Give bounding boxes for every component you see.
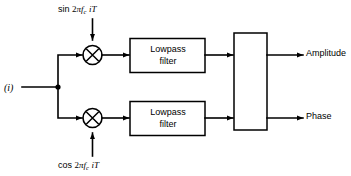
cos-frequency-subscript: c <box>86 164 89 171</box>
wire-branch-to-top-mixer <box>58 55 82 87</box>
input-signal-label: (i) <box>4 82 13 93</box>
cos-carrier-label: cos 2πfc iT <box>58 160 99 173</box>
phase-output-label: Phase <box>306 111 332 122</box>
cos-function-name: cos <box>58 160 72 170</box>
lowpass-filter-label-top: Lowpass filter <box>131 44 205 67</box>
sin-carrier-label: sin 2πfc iT <box>58 4 97 17</box>
sin-period-variable: T <box>91 4 96 14</box>
filter-label-line1-bottom: Lowpass <box>131 107 205 119</box>
sin-function-name: sin <box>58 4 70 14</box>
diagram-canvas <box>0 0 351 176</box>
filter-label-line2-top: filter <box>131 56 205 68</box>
cos-period-variable: T <box>94 160 99 170</box>
quadrature-demodulator-diagram: sin 2πfc iT cos 2πfc iT (i) Lowpass filt… <box>0 0 351 176</box>
combiner-block <box>234 33 267 130</box>
lowpass-filter-label-bottom: Lowpass filter <box>131 107 205 130</box>
sin-frequency-subscript: c <box>84 8 87 15</box>
wire-branch-to-bottom-mixer <box>58 87 82 118</box>
filter-label-line1-top: Lowpass <box>131 44 205 56</box>
amplitude-output-label: Amplitude <box>306 48 346 59</box>
filter-label-line2-bottom: filter <box>131 119 205 131</box>
